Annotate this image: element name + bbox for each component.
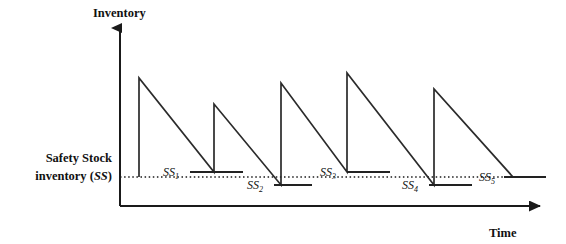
- level-label-subscript-ss1: 1: [175, 172, 179, 181]
- y-axis-title: Inventory: [93, 6, 147, 20]
- safety-stock-legend-line1: Safety Stock: [46, 151, 112, 165]
- level-label-text-ss5: SS: [479, 170, 491, 184]
- x-axis-title: Time: [489, 226, 517, 240]
- safety-stock-legend-symbol: SS: [94, 169, 108, 183]
- level-label-ss4: SS4: [402, 178, 418, 194]
- diagram-canvas: Inventory Time Safety Stock inventory (S…: [0, 0, 566, 244]
- safety-stock-legend-suffix: ): [108, 169, 112, 183]
- safety-stock-legend-line2: inventory (SS): [35, 169, 112, 183]
- level-label-text-ss2: SS: [247, 178, 259, 192]
- safety-stock-legend-prefix: inventory (: [35, 169, 94, 183]
- level-label-ss5: SS5: [479, 170, 495, 186]
- level-label-ss3: SS3: [320, 165, 336, 181]
- level-label-subscript-ss5: 5: [491, 177, 495, 186]
- level-label-subscript-ss4: 4: [414, 185, 418, 194]
- level-label-text-ss4: SS: [402, 178, 414, 192]
- level-label-subscript-ss2: 2: [259, 185, 263, 194]
- level-label-text-ss3: SS: [320, 165, 332, 179]
- level-label-subscript-ss3: 3: [331, 172, 336, 181]
- level-label-ss2: SS2: [247, 178, 263, 194]
- level-label-ss1: SS1: [163, 165, 179, 181]
- inventory-sawtooth-figure: Inventory Time Safety Stock inventory (S…: [0, 0, 566, 244]
- level-label-text-ss1: SS: [163, 165, 175, 179]
